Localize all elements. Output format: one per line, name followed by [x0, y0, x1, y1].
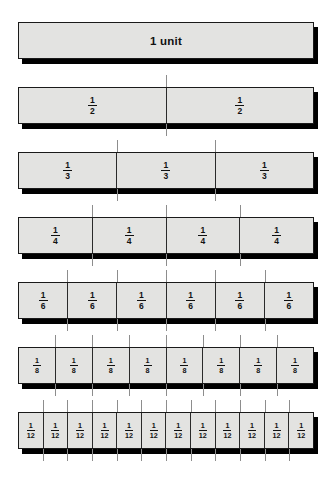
fraction-cell: 16: [67, 283, 116, 318]
fraction-cell: 112: [190, 413, 215, 448]
fraction-denominator: 12: [125, 431, 133, 439]
fraction-numerator: 1: [274, 226, 279, 235]
fraction-label: 112: [199, 422, 207, 439]
fraction-denominator: 3: [262, 171, 267, 180]
fraction-numerator: 1: [78, 422, 82, 430]
fraction-denominator: 8: [293, 366, 297, 374]
fraction-cell: 18: [129, 348, 166, 383]
fraction-denominator: 3: [65, 171, 70, 180]
fraction-cell: 18: [19, 348, 55, 383]
fraction-bar-twelfths: 112112112112112112112112112112112112: [18, 412, 314, 449]
fraction-denominator: 8: [72, 366, 76, 374]
fraction-label: 18: [107, 357, 115, 374]
fraction-numerator: 1: [139, 291, 144, 300]
fraction-bar-eighths: 1818181818181818: [18, 347, 314, 384]
fraction-label: 13: [260, 161, 269, 180]
bar-body: 1212: [18, 87, 314, 124]
fraction-numerator: 1: [293, 357, 297, 365]
fraction-label: 13: [63, 161, 72, 180]
fraction-label: 112: [76, 422, 84, 439]
fraction-denominator: 6: [139, 301, 144, 310]
fraction-denominator: 12: [150, 431, 158, 439]
fraction-denominator: 12: [101, 431, 109, 439]
fraction-denominator: 6: [237, 301, 242, 310]
fraction-denominator: 4: [53, 236, 58, 245]
fraction-numerator: 1: [219, 357, 223, 365]
fraction-cell: 112: [92, 413, 117, 448]
fraction-denominator: 2: [90, 106, 95, 115]
fraction-numerator: 1: [41, 291, 46, 300]
fraction-denominator: 8: [35, 366, 39, 374]
fraction-numerator: 1: [72, 357, 76, 365]
fraction-label: 12: [88, 96, 97, 115]
fraction-cell: 14: [92, 218, 166, 253]
fraction-label: 16: [235, 291, 244, 310]
bar-body: 131313: [18, 152, 314, 189]
fraction-label: 14: [125, 226, 134, 245]
fraction-numerator: 1: [127, 226, 132, 235]
fraction-label: 112: [273, 422, 281, 439]
fraction-label: 112: [125, 422, 133, 439]
fraction-cell: 112: [288, 413, 313, 448]
fraction-cell: 112: [215, 413, 240, 448]
fraction-numerator: 1: [29, 422, 33, 430]
fraction-numerator: 1: [127, 422, 131, 430]
fraction-cell: 112: [264, 413, 289, 448]
fraction-cell: 18: [239, 348, 276, 383]
fraction-denominator: 12: [223, 431, 231, 439]
fraction-numerator: 1: [152, 422, 156, 430]
fraction-cell: 1 unit: [19, 23, 313, 58]
fraction-label: 13: [161, 161, 170, 180]
fraction-label: 112: [248, 422, 256, 439]
fraction-cell: 112: [239, 413, 264, 448]
fraction-cell: 112: [19, 413, 43, 448]
fraction-bar-halves: 1212: [18, 87, 314, 124]
fraction-cell: 18: [276, 348, 313, 383]
fraction-denominator: 8: [256, 366, 260, 374]
fraction-label: 112: [27, 422, 35, 439]
fraction-cell: 14: [166, 218, 240, 253]
fraction-denominator: 12: [248, 431, 256, 439]
fraction-label: 16: [284, 291, 293, 310]
fraction-cell: 16: [166, 283, 215, 318]
fraction-bar-1-unit: 1 unit: [18, 22, 314, 59]
fraction-label: 18: [70, 357, 78, 374]
fraction-label: 18: [180, 357, 188, 374]
fraction-cell: 18: [166, 348, 203, 383]
fraction-bar-sixths: 161616161616: [18, 282, 314, 319]
fraction-label: 14: [198, 226, 207, 245]
fraction-cell: 112: [116, 413, 141, 448]
fraction-cell: 16: [116, 283, 165, 318]
fraction-cell: 14: [239, 218, 313, 253]
fraction-label: 16: [186, 291, 195, 310]
fraction-label: 112: [150, 422, 158, 439]
fraction-numerator: 1: [103, 422, 107, 430]
fraction-denominator: 8: [109, 366, 113, 374]
fraction-label: 12: [235, 96, 244, 115]
fraction-cell: 112: [141, 413, 166, 448]
fraction-label: 112: [223, 422, 231, 439]
fraction-numerator: 1: [275, 422, 279, 430]
fraction-label: 16: [88, 291, 97, 310]
fraction-denominator: 6: [287, 301, 292, 310]
fraction-numerator: 1: [53, 422, 57, 430]
fraction-denominator: 8: [219, 366, 223, 374]
fraction-label: 14: [272, 226, 281, 245]
fraction-numerator: 1: [201, 422, 205, 430]
fraction-label: 112: [51, 422, 59, 439]
fraction-numerator: 1: [176, 422, 180, 430]
fraction-label: 18: [217, 357, 225, 374]
fraction-label: 112: [101, 422, 109, 439]
fraction-denominator: 8: [182, 366, 186, 374]
fraction-label: 16: [39, 291, 48, 310]
fraction-numerator: 1: [35, 357, 39, 365]
fraction-numerator: 1: [109, 357, 113, 365]
bar-body: 161616161616: [18, 282, 314, 319]
fraction-cell: 16: [19, 283, 67, 318]
fraction-denominator: 12: [76, 431, 84, 439]
fraction-denominator: 12: [51, 431, 59, 439]
fraction-numerator: 1: [237, 96, 242, 105]
fraction-cell: 18: [92, 348, 129, 383]
fraction-cell: 16: [215, 283, 264, 318]
fraction-denominator: 3: [164, 171, 169, 180]
